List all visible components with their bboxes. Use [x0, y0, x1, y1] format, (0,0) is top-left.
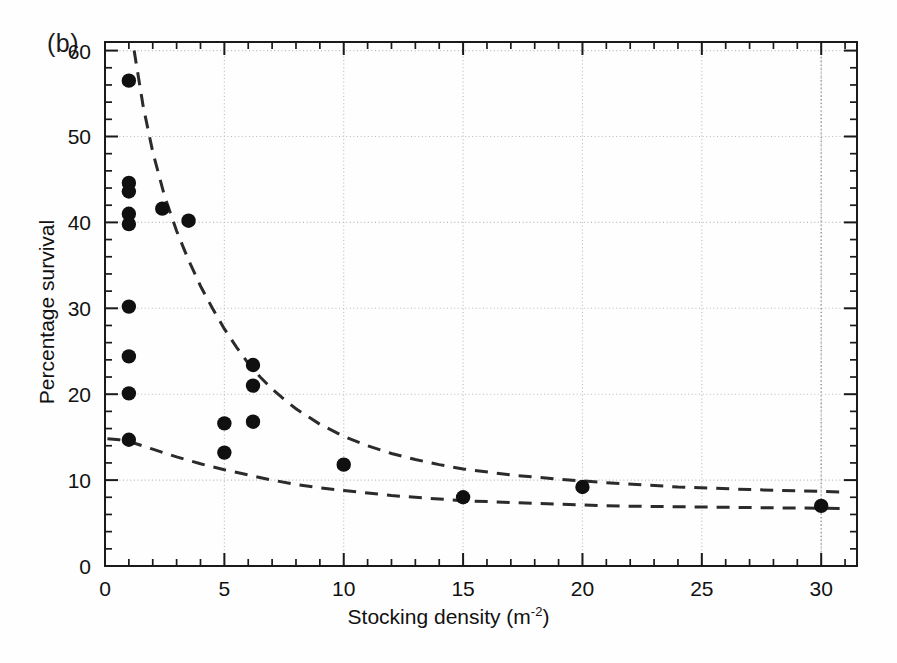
data-point-marker: [122, 299, 136, 313]
axes-frame: [105, 42, 857, 566]
y-tick-label: 20: [68, 383, 91, 406]
plot-frame: [105, 42, 857, 566]
data-point-marker: [814, 499, 828, 513]
data-point-marker: [181, 213, 195, 227]
data-points: [122, 73, 829, 513]
data-point-marker: [122, 184, 136, 198]
y-axis-title: Percentage survival: [35, 142, 59, 482]
axis-tick-labels: 0102030405060051015202530: [68, 40, 833, 600]
data-point-marker: [122, 73, 136, 87]
upper-fitted-decay-curve: [134, 51, 845, 493]
x-axis-title-exponent: -2: [531, 604, 543, 619]
y-tick-label: 60: [68, 40, 91, 63]
x-tick-label: 15: [451, 577, 474, 600]
data-point-marker: [337, 457, 351, 471]
x-axis-title-close: ): [542, 605, 549, 628]
data-point-marker: [246, 358, 260, 372]
data-point-marker: [122, 217, 136, 231]
y-tick-label: 10: [68, 469, 91, 492]
data-point-marker: [575, 480, 589, 494]
scatter-plot-canvas: 0102030405060051015202530: [0, 0, 897, 663]
figure-panel-b: (b) 0102030405060051015202530 Stocking d…: [0, 0, 897, 663]
y-tick-label: 0: [79, 555, 91, 578]
x-tick-label: 20: [571, 577, 594, 600]
axis-ticks: [105, 42, 857, 566]
y-tick-label: 50: [68, 125, 91, 148]
data-point-marker: [217, 416, 231, 430]
data-point-marker: [217, 445, 231, 459]
x-axis-title: Stocking density (m-2): [0, 604, 897, 629]
x-tick-label: 30: [810, 577, 833, 600]
data-point-marker: [246, 414, 260, 428]
x-tick-label: 10: [332, 577, 355, 600]
data-point-marker: [122, 386, 136, 400]
data-point-marker: [155, 201, 169, 215]
x-tick-label: 5: [219, 577, 231, 600]
x-tick-label: 0: [99, 577, 111, 600]
x-axis-title-base: Stocking density (m: [348, 605, 531, 628]
gridlines: [105, 42, 857, 566]
data-point-marker: [456, 490, 470, 504]
data-point-marker: [122, 433, 136, 447]
x-tick-label: 25: [690, 577, 713, 600]
data-point-marker: [246, 378, 260, 392]
fitted-curves: [107, 51, 845, 509]
y-tick-label: 30: [68, 297, 91, 320]
data-point-marker: [122, 349, 136, 363]
y-tick-label: 40: [68, 211, 91, 234]
